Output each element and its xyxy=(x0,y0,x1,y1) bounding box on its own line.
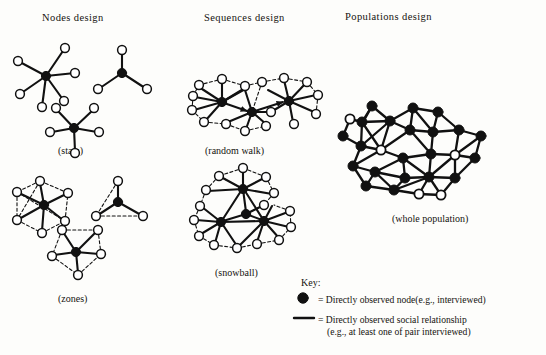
zone-figure-3-spoke xyxy=(92,177,148,221)
column-title-sequences: Sequences design xyxy=(204,12,285,23)
caption-zones: (zones) xyxy=(58,293,87,304)
star-figure-3-spoke xyxy=(94,46,152,94)
whole-population-figure xyxy=(338,101,486,200)
key-entry-node-label: = Directly observed node(e.g., interview… xyxy=(318,294,486,306)
caption-whole-population: (whole population) xyxy=(392,213,468,224)
zone-figure-6-spoke xyxy=(13,177,73,238)
column-title-nodes: Nodes design xyxy=(42,12,104,23)
random-walk-figure xyxy=(188,74,323,136)
column-title-populations: Populations design xyxy=(345,11,432,22)
key-filled-circle-icon xyxy=(298,293,308,303)
caption-stars: (stars) xyxy=(58,145,83,156)
figure-root: Nodes design Sequences design Population… xyxy=(0,0,546,355)
caption-snowball: (snowball) xyxy=(215,267,258,278)
key-entry-relationship-label-line2: (e.g., at least one of pair interviewed) xyxy=(327,326,471,338)
key-symbols xyxy=(294,293,314,318)
caption-random-walk: (random walk) xyxy=(205,145,264,156)
key-entry-relationship-label-line1: = Directly observed social relationship xyxy=(318,314,467,326)
key-title: Key: xyxy=(301,277,320,288)
zone-figure-5-spoke xyxy=(48,226,106,280)
snowball-figure xyxy=(190,164,296,253)
star-figure-6-spoke xyxy=(14,44,80,112)
